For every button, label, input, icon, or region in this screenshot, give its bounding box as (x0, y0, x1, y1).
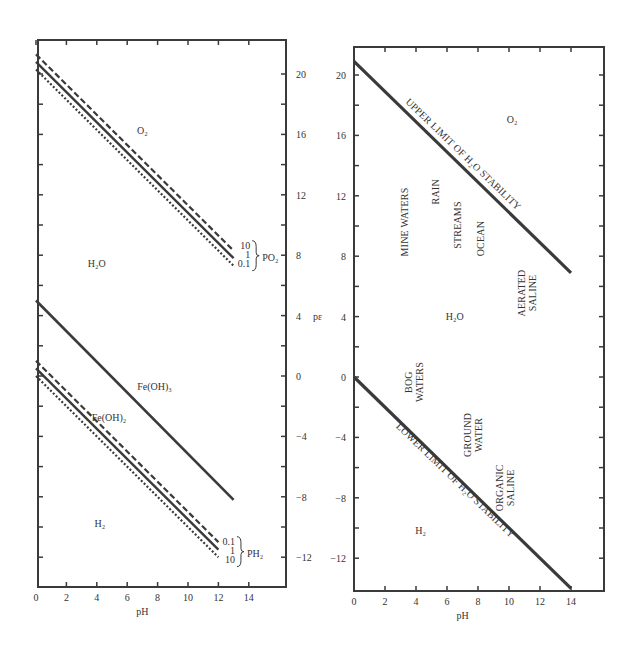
y-tick-label: 20 (296, 69, 306, 80)
legend-label: PO₂ (262, 252, 278, 263)
environment-label: MINE WATERS (399, 188, 410, 257)
x-tick-label: 12 (213, 592, 223, 603)
x-tick-label: 10 (183, 592, 193, 603)
y-tick-label: 8 (341, 251, 346, 262)
region-label: Fe(OH)₂ (92, 412, 127, 424)
left-panel: 02468101214pH201612840−4−8−12O₂H₂OFe(OH)… (34, 40, 312, 617)
y-tick-label: −12 (330, 553, 346, 564)
plot-frame (38, 40, 286, 587)
x-tick-label: 12 (535, 596, 545, 607)
x-tick-label: 4 (414, 596, 419, 607)
environment-label: STREAMS (452, 201, 463, 249)
y-tick-label: 16 (336, 130, 346, 141)
y-tick-label: 20 (336, 70, 346, 81)
series-line (36, 376, 218, 557)
pe-axis-label: pε (313, 311, 322, 322)
y-tick-label: 0 (341, 372, 346, 383)
x-tick-label: 14 (244, 592, 254, 603)
x-tick-label: 8 (155, 592, 160, 603)
series-line (36, 62, 234, 258)
series-line (36, 54, 234, 250)
y-tick-label: 12 (336, 191, 346, 202)
legend-entry: 0.1 (238, 258, 251, 269)
x-axis-title: pH (136, 606, 148, 617)
legend-brace (252, 241, 259, 271)
line-label: UPPER LIMIT OF H₂O STABILITY (403, 96, 523, 212)
region-label: H₂ (94, 518, 105, 529)
x-tick-label: 4 (94, 592, 99, 603)
region-label: H₂O (88, 258, 106, 269)
right-panel: 02468101214pH201612840−4−8−12O₂H₂OH₂UPPE… (330, 47, 604, 621)
y-tick-label: −4 (296, 431, 307, 442)
y-tick-label: 4 (296, 311, 301, 322)
y-tick-label: 8 (296, 250, 301, 261)
x-tick-label: 2 (383, 596, 388, 607)
environment-label: ORGANIC (495, 464, 506, 511)
series-line (36, 301, 234, 500)
environment-label: GROUND (462, 413, 473, 457)
x-tick-label: 14 (566, 596, 576, 607)
environment-label: RAIN (430, 179, 441, 204)
environment-label: AERATED (516, 269, 527, 316)
series-line (36, 69, 234, 265)
y-tick-label: −12 (296, 552, 312, 563)
region-label: H₂O (446, 311, 464, 322)
y-tick-label: 12 (296, 190, 306, 201)
y-tick-label: −8 (335, 493, 346, 504)
environment-label: SALINE (527, 275, 538, 312)
y-tick-label: 16 (296, 129, 306, 140)
environment-label: WATER (473, 418, 484, 452)
y-tick-label: 0 (296, 371, 301, 382)
x-tick-label: 10 (504, 596, 514, 607)
series-line (36, 368, 218, 549)
legend-label: PH₂ (247, 548, 263, 559)
x-tick-label: 8 (476, 596, 481, 607)
environment-label: WATERS (414, 362, 425, 402)
figure: 02468101214pH201612840−4−8−12O₂H₂OFe(OH)… (0, 0, 636, 646)
series-line (36, 361, 218, 542)
x-axis-title: pH (456, 610, 468, 621)
x-tick-label: 6 (445, 596, 450, 607)
y-tick-label: −4 (335, 432, 346, 443)
region-label: Fe(OH)₃ (137, 381, 172, 393)
region-label: O₂ (507, 114, 518, 125)
x-tick-label: 6 (125, 592, 130, 603)
legend-brace (237, 537, 244, 567)
environment-label: BOG (403, 371, 414, 393)
environment-label: OCEAN (475, 221, 486, 256)
x-tick-label: 0 (352, 596, 357, 607)
region-label: H₂ (415, 525, 426, 536)
x-tick-label: 0 (34, 592, 39, 603)
chart-svg: 02468101214pH201612840−4−8−12O₂H₂OFe(OH)… (0, 0, 636, 646)
x-tick-label: 2 (64, 592, 69, 603)
legend-entry: 10 (225, 554, 235, 565)
environment-label: SALINE (506, 469, 517, 506)
region-label: O₂ (137, 125, 148, 136)
y-tick-label: 4 (341, 312, 346, 323)
y-tick-label: −8 (296, 492, 307, 503)
